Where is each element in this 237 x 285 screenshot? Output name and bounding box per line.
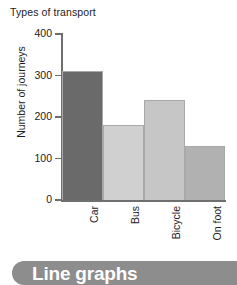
bar-bicycle — [144, 100, 185, 200]
y-axis-title: Number of journeys — [15, 36, 27, 148]
section-banner: Line graphs — [12, 261, 237, 285]
x-category-label-bus: Bus — [129, 206, 141, 224]
x-category-label-car: Car — [88, 206, 100, 223]
bar-chart-figure: Types of transport 400 300 200 100 0 Num… — [0, 0, 237, 258]
section-banner-label: Line graphs — [32, 263, 137, 285]
y-tick-label-100: 100 — [12, 153, 52, 164]
bar-car — [62, 71, 103, 200]
x-axis-line — [61, 200, 226, 202]
x-category-label-bicycle: Bicycle — [170, 206, 182, 239]
bar-bus — [103, 125, 144, 200]
y-tick-label-0: 0 — [12, 194, 52, 205]
plot-area — [62, 34, 225, 200]
bar-on-foot — [185, 146, 225, 200]
chart-title: Types of transport — [10, 6, 96, 18]
x-category-label-on-foot: On foot — [211, 206, 223, 240]
